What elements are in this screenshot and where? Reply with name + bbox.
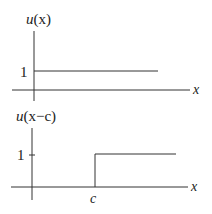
top-plot: u(x) x 1 [12,11,200,101]
bottom-xtick-c: c [90,191,97,206]
top-ytick-1: 1 [20,64,28,80]
top-ylabel: u(x) [26,11,51,28]
bottom-ylabel: u(x−c) [16,108,56,125]
bottom-step-line [95,154,176,187]
bottom-ytick-1: 1 [17,147,25,163]
step-function-diagram: u(x) x 1 u(x−c) x 1 c [0,0,212,214]
top-xlabel: x [192,82,200,97]
bottom-xlabel: x [190,179,198,194]
bottom-plot: u(x−c) x 1 c [11,108,198,206]
